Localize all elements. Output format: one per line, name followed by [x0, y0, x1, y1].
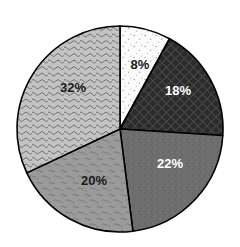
pie-slice-group: [17, 26, 223, 232]
pie-slice-label-8: 8%: [131, 57, 150, 72]
pie-slice-label-20: 20%: [81, 173, 107, 188]
pie-slice-label-32: 32%: [60, 80, 86, 95]
pie-slice-label-22: 22%: [157, 156, 183, 171]
pie-svg: 8%18%22%20%32%: [0, 0, 240, 247]
pie-chart-figure: 8%18%22%20%32%: [0, 0, 240, 247]
pie-chart-canvas: 8%18%22%20%32%: [0, 0, 240, 247]
pie-slice-label-18: 18%: [165, 83, 191, 98]
